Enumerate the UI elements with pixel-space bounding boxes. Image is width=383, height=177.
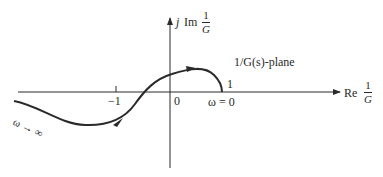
tick-label-origin: 0 — [174, 95, 180, 107]
curve-label-one: 1 — [227, 78, 233, 90]
imag-axis-j-label: j — [176, 16, 179, 28]
real-axis-re-label: Re — [344, 87, 357, 99]
plane-label: 1/G(s)-plane — [234, 56, 295, 68]
real-axis-fraction: 1 G — [364, 80, 372, 105]
tick-label-minus-one: −1 — [108, 95, 121, 107]
imag-axis-fraction: 1 G — [202, 10, 210, 35]
omega-zero-label: ω = 0 — [208, 96, 235, 108]
imag-axis-im-label: Im — [184, 16, 197, 28]
